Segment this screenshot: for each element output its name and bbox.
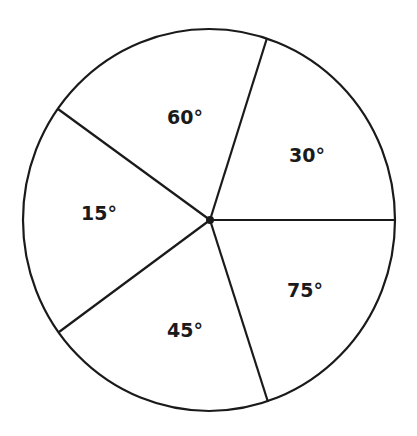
radius-upper-right: [210, 38, 267, 220]
sector-labels: 60°30°15°75°45°: [81, 106, 325, 341]
sector-15-label: 15°: [81, 202, 117, 224]
radius-lower-left: [59, 220, 210, 332]
center-point: [206, 216, 214, 224]
radius-lower-right: [210, 220, 268, 402]
sector-45-label: 45°: [167, 319, 203, 341]
circle-sector-diagram: 60°30°15°75°45°: [0, 0, 417, 436]
sector-60-label: 60°: [167, 106, 203, 128]
sector-75-label: 75°: [287, 279, 323, 301]
sector-30-label: 30°: [289, 144, 325, 166]
